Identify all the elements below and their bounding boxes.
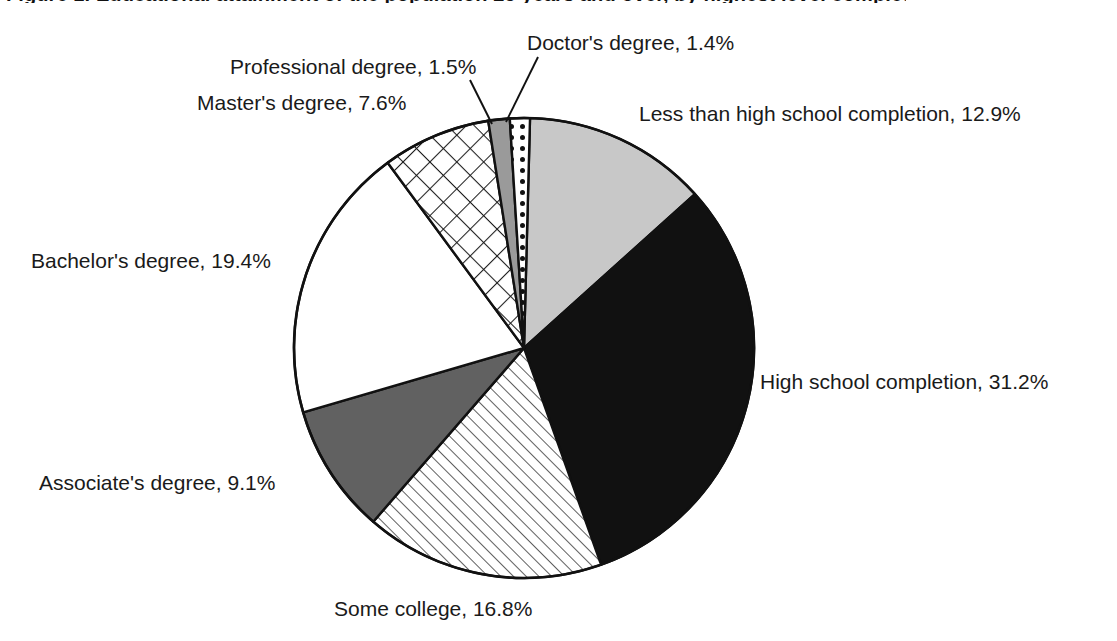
slice-label-doctors-degree: Doctor's degree, 1.4% [527, 30, 734, 55]
slice-label-high-school-completion: High school completion, 31.2% [760, 369, 1048, 394]
pie-leader-lines [470, 57, 538, 124]
slice-label-masters-degree: Master's degree, 7.6% [197, 90, 406, 115]
leader-line-doctors-degree [506, 57, 538, 122]
slice-label-associates-degree: Associate's degree, 9.1% [39, 470, 275, 495]
pie-chart-graphic: Less than high school completion, 12.9%H… [0, 0, 1117, 641]
leader-line-professional-degree [470, 80, 492, 124]
slice-label-some-college: Some college, 16.8% [334, 596, 532, 621]
slice-label-bachelors-degree: Bachelor's degree, 19.4% [31, 248, 271, 273]
slice-label-less-than-high-school: Less than high school completion, 12.9% [639, 101, 1021, 126]
slice-label-professional-degree: Professional degree, 1.5% [230, 54, 476, 79]
pie-slices: Less than high school completion, 12.9%H… [294, 118, 754, 578]
pie-chart-figure: Figure 1. Educational attainment of the … [0, 0, 1117, 641]
